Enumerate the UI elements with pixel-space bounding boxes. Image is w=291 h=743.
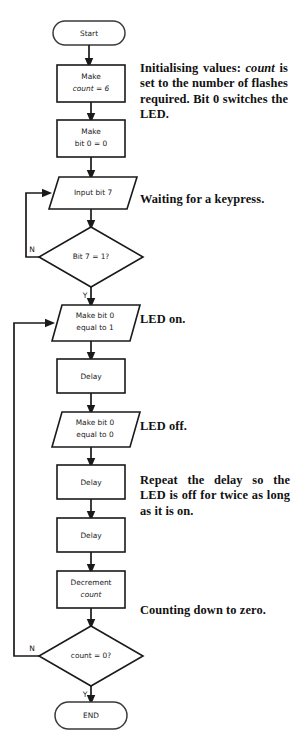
annotation-initialising: Initialising values: count is set to the… (140, 61, 288, 123)
branch-label-yes-bit7: Y (82, 291, 88, 300)
node-end[interactable]: END (55, 702, 127, 729)
node-decision-bit7[interactable]: Bit 7 = 1? (39, 227, 143, 287)
node-make-count[interactable]: Make count = 6 (57, 65, 125, 102)
node-led-on-line1: Make bit 0 (76, 311, 115, 320)
node-input-bit7-label: Input bit 7 (74, 188, 112, 197)
node-delay-1[interactable]: Delay (57, 359, 125, 393)
node-decision-count-label: count = 0? (71, 651, 111, 660)
node-delay-3[interactable]: Delay (57, 518, 125, 552)
node-delay-2-label: Delay (80, 478, 102, 487)
node-led-off[interactable]: Make bit 0 equal to 0 (52, 412, 140, 447)
annotation-counting-down-text: Counting down to zero. (140, 603, 266, 617)
annotation-repeat-delay-text: Repeat the delay so the LED is off for t… (140, 473, 290, 518)
node-make-bit0[interactable]: Make bit 0 = 0 (57, 120, 125, 157)
annotation-waiting: Waiting for a keypress. (140, 192, 288, 207)
node-start[interactable]: Start (53, 21, 125, 45)
node-led-off-line1: Make bit 0 (76, 418, 115, 427)
flowchart-page: Start Make count = 6 Make bit 0 = 0 Inpu… (0, 0, 291, 743)
node-decrement-line2: count (81, 590, 103, 599)
node-led-on-line2: equal to 1 (76, 323, 114, 332)
node-start-label: Start (80, 29, 98, 38)
node-make-count-line1: Make (81, 72, 101, 81)
annotation-waiting-text: Waiting for a keypress. (140, 192, 264, 206)
annotation-led-off: LED off. (140, 419, 288, 434)
node-input-bit7[interactable]: Input bit 7 (49, 177, 137, 209)
node-delay-1-label: Delay (80, 372, 102, 381)
node-led-on[interactable]: Make bit 0 equal to 1 (52, 305, 140, 341)
branch-label-no-count: N (29, 644, 35, 653)
node-make-bit0-line1: Make (81, 127, 101, 136)
annotation-led-on: LED on. (140, 312, 288, 327)
node-led-off-line2: equal to 0 (76, 430, 114, 439)
edge-count-no-outer-loopback (14, 323, 50, 656)
node-decrement-count[interactable]: Decrement count (57, 571, 125, 608)
annotation-led-on-text: LED on. (140, 312, 185, 326)
node-delay-3-label: Delay (80, 531, 102, 540)
annotation-led-off-text: LED off. (140, 419, 187, 433)
node-make-count-line2: count = 6 (73, 84, 110, 93)
branch-label-yes-count: Y (82, 690, 88, 699)
node-delay-2[interactable]: Delay (57, 465, 125, 499)
node-make-bit0-line2: bit 0 = 0 (75, 139, 108, 148)
annotation-repeat-delay: Repeat the delay so the LED is off for t… (140, 473, 290, 519)
branch-label-no-bit7: N (29, 245, 35, 254)
node-decision-count[interactable]: count = 0? (39, 626, 143, 686)
node-end-label: END (83, 711, 99, 720)
annotation-counting-down: Counting down to zero. (140, 603, 288, 618)
annotation-initialising-text: Initialising values: count is set to the… (140, 61, 288, 121)
node-decrement-line1: Decrement (70, 578, 111, 587)
node-decision-bit7-label: Bit 7 = 1? (73, 252, 110, 261)
